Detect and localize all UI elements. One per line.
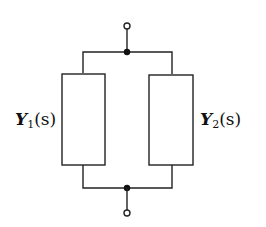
- top-terminal: [124, 23, 130, 29]
- admittance-y1-box: [62, 74, 105, 165]
- label-y2: Y2(s): [200, 109, 241, 131]
- bottom-terminal: [124, 210, 130, 216]
- label-y1: Y1(s): [15, 109, 56, 131]
- top-bus-wire: [83, 52, 172, 74]
- top-junction-dot: [124, 49, 130, 55]
- circuit-diagram: Y1(s) Y2(s): [0, 0, 266, 227]
- admittance-y2-box: [149, 75, 193, 165]
- bottom-bus-wire: [83, 165, 172, 188]
